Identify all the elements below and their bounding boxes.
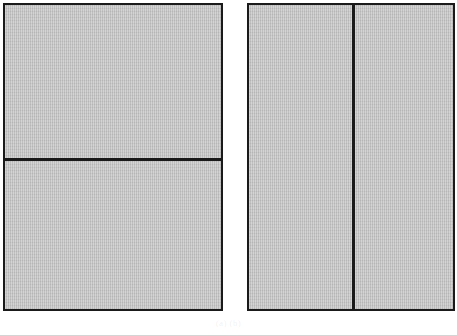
- panel-left[interactable]: [3, 3, 223, 311]
- panel-left-region-bottom[interactable]: [5, 161, 221, 309]
- figure-caption: (a) (b): [0, 317, 457, 329]
- panel-right-region-right[interactable]: [355, 5, 453, 309]
- panel-left-region-top[interactable]: [5, 5, 221, 158]
- panel-right[interactable]: [247, 3, 455, 311]
- figure-root: (a) (b): [0, 0, 457, 335]
- panel-right-region-left[interactable]: [249, 5, 352, 309]
